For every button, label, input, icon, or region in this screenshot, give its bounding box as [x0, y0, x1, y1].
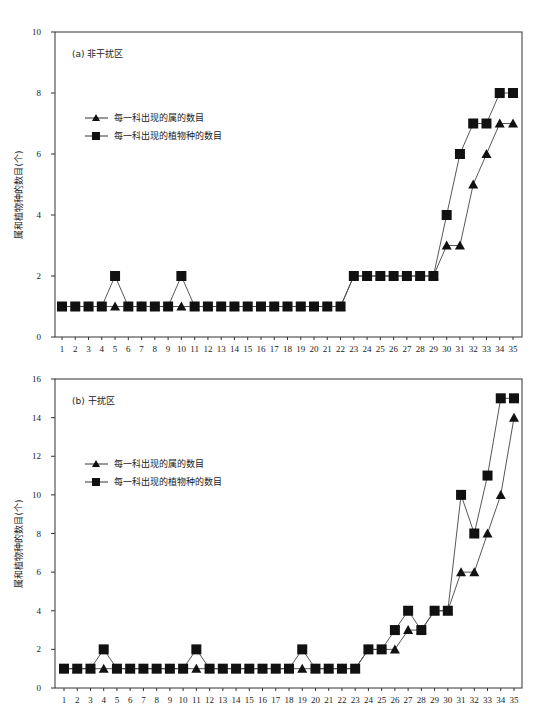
x-tick-label: 19	[296, 344, 306, 354]
square-marker	[483, 471, 493, 481]
triangle-marker	[469, 567, 479, 576]
x-tick-label: 5	[115, 695, 120, 705]
x-tick-label: 4	[100, 344, 105, 354]
triangle-marker	[176, 302, 186, 311]
x-tick-label: 15	[243, 344, 253, 354]
x-tick-label: 16	[258, 695, 268, 705]
triangle-marker	[191, 664, 201, 673]
x-tick-label: 28	[417, 695, 427, 705]
square-marker	[455, 149, 465, 159]
x-tick-label: 27	[402, 344, 412, 354]
x-tick-label: 26	[389, 344, 399, 354]
x-tick-label: 27	[404, 695, 414, 705]
x-tick-label: 2	[75, 695, 80, 705]
x-tick-label: 31	[455, 344, 464, 354]
x-tick-label: 29	[429, 344, 439, 354]
x-tick-label: 20	[311, 695, 321, 705]
y-tick-label: 10	[32, 27, 42, 37]
y-tick-label: 2	[37, 271, 42, 281]
square-marker	[508, 88, 518, 98]
x-tick-label: 14	[232, 695, 242, 705]
square-marker	[481, 119, 491, 129]
x-tick-label: 23	[349, 344, 359, 354]
x-tick-label: 34	[495, 344, 505, 354]
x-tick-label: 10	[177, 344, 187, 354]
y-tick-label: 12	[32, 451, 41, 461]
x-tick-label: 8	[154, 695, 159, 705]
y-tick-label: 6	[37, 567, 42, 577]
x-tick-label: 20	[310, 344, 320, 354]
y-tick-label: 4	[37, 606, 42, 616]
square-marker	[191, 644, 201, 654]
x-tick-label: 12	[203, 344, 212, 354]
x-tick-label: 25	[376, 344, 386, 354]
x-tick-label: 21	[324, 695, 333, 705]
series-line	[64, 418, 514, 669]
triangle-marker	[442, 241, 452, 250]
x-tick-label: 17	[270, 344, 280, 354]
x-tick-label: 26	[390, 695, 400, 705]
x-tick-label: 1	[62, 695, 67, 705]
square-marker	[390, 625, 400, 635]
legend-label: 每一科出现的属的数目	[114, 112, 204, 123]
square-marker	[99, 644, 109, 654]
x-tick-label: 35	[510, 695, 520, 705]
y-tick-label: 8	[37, 529, 42, 539]
x-tick-label: 7	[141, 695, 146, 705]
y-tick-label: 0	[37, 332, 42, 342]
y-tick-label: 0	[37, 683, 42, 693]
square-marker	[297, 644, 307, 654]
x-tick-label: 13	[217, 344, 227, 354]
square-marker	[110, 271, 120, 281]
x-tick-label: 25	[377, 695, 387, 705]
x-tick-label: 18	[285, 695, 295, 705]
x-tick-label: 3	[88, 695, 93, 705]
x-tick-label: 24	[364, 695, 374, 705]
series-line	[62, 93, 513, 307]
square-marker	[495, 88, 505, 98]
y-axis-label: 属和植物种的数目(个)	[13, 499, 24, 587]
y-tick-label: 14	[32, 413, 42, 423]
x-tick-label: 10	[179, 695, 189, 705]
panel-title: (b) 干扰区	[72, 395, 115, 406]
x-tick-label: 28	[416, 344, 426, 354]
x-tick-label: 13	[218, 695, 228, 705]
triangle-marker	[99, 664, 109, 673]
x-tick-label: 19	[298, 695, 308, 705]
y-tick-label: 8	[37, 88, 42, 98]
x-tick-label: 3	[86, 344, 91, 354]
x-tick-label: 35	[509, 344, 519, 354]
x-tick-label: 12	[205, 695, 214, 705]
x-tick-label: 29	[430, 695, 440, 705]
x-tick-label: 11	[190, 344, 199, 354]
legend-label: 每一科出现的属的数目	[114, 458, 204, 469]
legend-label: 每一科出现的植物种的数目	[114, 476, 222, 487]
x-tick-label: 34	[496, 695, 506, 705]
triangle-marker	[455, 241, 465, 250]
x-tick-label: 9	[166, 344, 171, 354]
triangle-marker	[483, 529, 493, 538]
y-tick-label: 6	[37, 149, 42, 159]
triangle-marker	[509, 413, 519, 422]
triangle-marker	[495, 119, 505, 128]
x-tick-label: 21	[323, 344, 332, 354]
triangle-marker	[481, 149, 491, 158]
y-tick-label: 16	[32, 374, 42, 384]
plot-area	[55, 32, 522, 337]
x-tick-label: 18	[283, 344, 293, 354]
triangle-marker	[456, 567, 466, 576]
triangle-marker	[390, 644, 400, 653]
triangle-marker	[468, 180, 478, 189]
chart-panel-a: 0246810123456789101112131415161718192021…	[0, 0, 541, 360]
square-marker	[442, 210, 452, 220]
x-tick-label: 8	[153, 344, 158, 354]
x-tick-label: 31	[457, 695, 466, 705]
x-tick-label: 14	[230, 344, 240, 354]
x-tick-label: 2	[73, 344, 78, 354]
triangle-marker	[496, 490, 506, 499]
square-marker	[509, 393, 519, 403]
x-tick-label: 6	[128, 695, 133, 705]
x-tick-label: 15	[245, 695, 255, 705]
x-tick-label: 23	[351, 695, 361, 705]
triangle-marker	[403, 625, 413, 634]
